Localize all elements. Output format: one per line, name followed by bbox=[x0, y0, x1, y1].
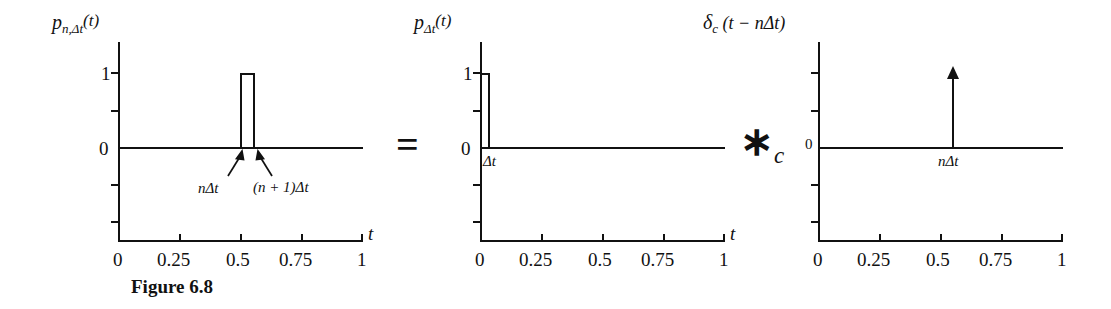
panel3-x-tick-label: 0.75 bbox=[979, 250, 1012, 269]
panel3-annotation-text: nΔt bbox=[938, 153, 958, 169]
panel3-impulse-shaft bbox=[952, 78, 954, 148]
panel3-y-tick bbox=[811, 72, 818, 74]
panel3-x-tick bbox=[879, 234, 881, 241]
panel3-x-tick-label: 0.25 bbox=[857, 250, 890, 269]
panel3-y-tick bbox=[811, 110, 818, 112]
panel3-zero-line bbox=[818, 147, 1063, 149]
panel3-y-tick bbox=[811, 221, 818, 223]
panel-impulse-shifted: δc (t − nΔt) 0 nΔt 0 0.25 0.5 0.75 1 bbox=[0, 0, 1111, 309]
panel3-x-tick bbox=[1061, 234, 1063, 241]
panel3-x-tick-label: 1 bbox=[1057, 250, 1067, 269]
panel3-annotation-label: nΔt bbox=[938, 154, 958, 169]
panel3-x-tick-label: 0 bbox=[813, 250, 823, 269]
panel3-x-tick bbox=[1001, 234, 1003, 241]
panel3-y-label-zero: 0 bbox=[805, 137, 813, 152]
panel3-impulse-arrowhead bbox=[947, 66, 959, 79]
panel3-y-axis bbox=[818, 42, 820, 242]
panel3-title: δc (t − nΔt) bbox=[703, 12, 785, 35]
panel3-x-tick-label: 0.5 bbox=[926, 250, 950, 269]
panel3-title-delta: δ bbox=[703, 11, 712, 33]
panel3-title-arg: (t − nΔt) bbox=[718, 13, 785, 33]
panel3-y-tick bbox=[811, 184, 818, 186]
panel3-x-tick bbox=[940, 234, 942, 241]
figure-6-8: pn,Δt(t) 1 0 nΔt (n + 1)Δt bbox=[0, 0, 1111, 309]
